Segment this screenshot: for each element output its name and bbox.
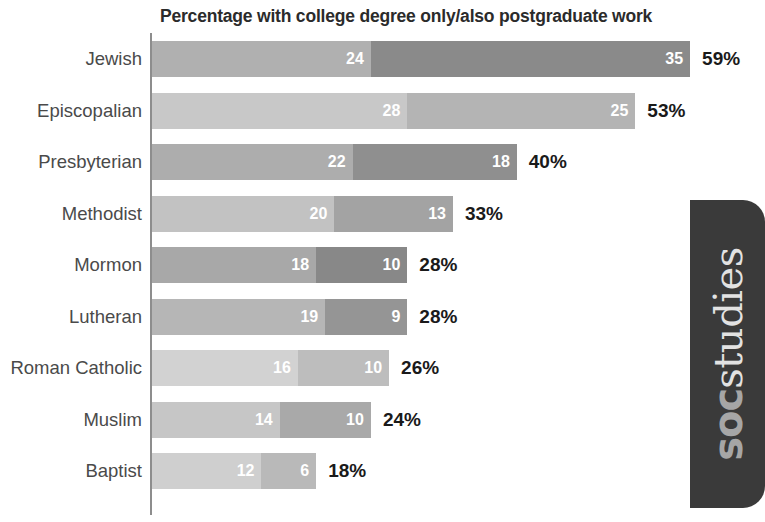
- stacked-bar: 199: [152, 299, 407, 335]
- bar-segment-degree-only: 20: [152, 196, 334, 232]
- stacked-bar: 2825: [152, 93, 635, 129]
- bar-total-label: 28%: [419, 247, 457, 283]
- plot-area: Jewish243559%Episcopalian282553%Presbyte…: [0, 0, 765, 522]
- category-label-presbyterian: Presbyterian: [0, 144, 142, 180]
- logo-text-group: soc studies: [705, 247, 751, 460]
- chart-row: Jewish243559%: [0, 41, 765, 77]
- chart-row: Mormon181028%: [0, 247, 765, 283]
- bar-total-label: 33%: [465, 196, 503, 232]
- category-label-muslim: Muslim: [0, 402, 142, 438]
- segment-value-label: 10: [383, 247, 401, 283]
- bar-segment-degree-only: 14: [152, 402, 280, 438]
- bar-segment-degree-only: 16: [152, 350, 298, 386]
- stacked-bar: 2013: [152, 196, 453, 232]
- bar-total-label: 59%: [702, 41, 740, 77]
- bar-segment-degree-only: 22: [152, 144, 353, 180]
- bar-total-label: 53%: [647, 93, 685, 129]
- bar-segment-postgraduate: 13: [334, 196, 453, 232]
- category-label-jewish: Jewish: [0, 41, 142, 77]
- bar-segment-postgraduate: 25: [407, 93, 635, 129]
- bar-segment-degree-only: 19: [152, 299, 325, 335]
- bar-segment-degree-only: 24: [152, 41, 371, 77]
- bar-total-label: 28%: [419, 299, 457, 335]
- category-label-baptist: Baptist: [0, 453, 142, 489]
- chart-row: Presbyterian221840%: [0, 144, 765, 180]
- chart-row: Episcopalian282553%: [0, 93, 765, 129]
- bar-segment-postgraduate: 10: [280, 402, 371, 438]
- bar-segment-postgraduate: 18: [353, 144, 517, 180]
- stacked-bar: 2435: [152, 41, 690, 77]
- bar-segment-postgraduate: 9: [325, 299, 407, 335]
- segment-value-label: 22: [328, 144, 346, 180]
- chart-row: Roman Catholic161026%: [0, 350, 765, 386]
- category-label-episcopalian: Episcopalian: [0, 93, 142, 129]
- bar-segment-postgraduate: 35: [371, 41, 690, 77]
- segment-value-label: 28: [383, 93, 401, 129]
- segment-value-label: 18: [492, 144, 510, 180]
- segment-value-label: 6: [300, 453, 309, 489]
- segment-value-label: 12: [237, 453, 255, 489]
- bar-total-label: 18%: [328, 453, 366, 489]
- segment-value-label: 20: [310, 196, 328, 232]
- segment-value-label: 16: [273, 350, 291, 386]
- segment-value-label: 35: [665, 41, 683, 77]
- logo-studies-text: studies: [705, 247, 751, 388]
- segment-value-label: 13: [428, 196, 446, 232]
- category-label-methodist: Methodist: [0, 196, 142, 232]
- bar-total-label: 40%: [529, 144, 567, 180]
- bar-segment-degree-only: 28: [152, 93, 407, 129]
- bar-segment-postgraduate: 10: [298, 350, 389, 386]
- chart-row: Methodist201333%: [0, 196, 765, 232]
- category-label-lutheran: Lutheran: [0, 299, 142, 335]
- stacked-bar: 126: [152, 453, 316, 489]
- category-label-roman-catholic: Roman Catholic: [0, 350, 142, 386]
- bar-total-label: 26%: [401, 350, 439, 386]
- segment-value-label: 24: [346, 41, 364, 77]
- stacked-bar: 2218: [152, 144, 517, 180]
- segment-value-label: 18: [291, 247, 309, 283]
- segment-value-label: 10: [346, 402, 364, 438]
- bar-segment-degree-only: 18: [152, 247, 316, 283]
- stacked-bar: 1410: [152, 402, 371, 438]
- segment-value-label: 10: [364, 350, 382, 386]
- stacked-bar: 1610: [152, 350, 389, 386]
- chart-row: Muslim141024%: [0, 402, 765, 438]
- bar-segment-postgraduate: 6: [261, 453, 316, 489]
- bar-total-label: 24%: [383, 402, 421, 438]
- chart-row: Baptist12618%: [0, 453, 765, 489]
- bar-segment-postgraduate: 10: [316, 247, 407, 283]
- segment-value-label: 19: [300, 299, 318, 335]
- category-label-mormon: Mormon: [0, 247, 142, 283]
- chart-container: Percentage with college degree only/also…: [0, 0, 765, 522]
- bar-segment-degree-only: 12: [152, 453, 261, 489]
- stacked-bar: 1810: [152, 247, 407, 283]
- segment-value-label: 25: [611, 93, 629, 129]
- socstudies-logo-tab: soc studies: [690, 200, 765, 508]
- segment-value-label: 9: [391, 299, 400, 335]
- chart-row: Lutheran19928%: [0, 299, 765, 335]
- logo-soc-text: soc: [705, 389, 751, 461]
- segment-value-label: 14: [255, 402, 273, 438]
